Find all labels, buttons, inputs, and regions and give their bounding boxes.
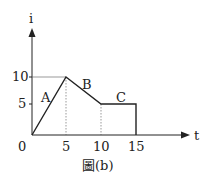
y-axis-arrow-icon bbox=[29, 28, 36, 37]
chart-canvas bbox=[0, 0, 210, 184]
origin-label: 0 bbox=[18, 140, 26, 153]
y-axis-label: i bbox=[29, 12, 33, 25]
segment-label-a: A bbox=[41, 91, 50, 104]
segment-label-c: C bbox=[116, 91, 126, 104]
x-tick-10: 10 bbox=[93, 140, 110, 153]
x-axis-arrow-icon bbox=[181, 132, 190, 139]
x-axis-label: t bbox=[194, 129, 199, 142]
segment-label-b: B bbox=[82, 78, 92, 91]
x-tick-15: 15 bbox=[128, 140, 145, 153]
y-tick-5: 5 bbox=[18, 97, 26, 110]
figure-caption: 圖(b) bbox=[82, 159, 113, 172]
y-tick-10: 10 bbox=[12, 70, 29, 83]
x-tick-5: 5 bbox=[62, 140, 70, 153]
